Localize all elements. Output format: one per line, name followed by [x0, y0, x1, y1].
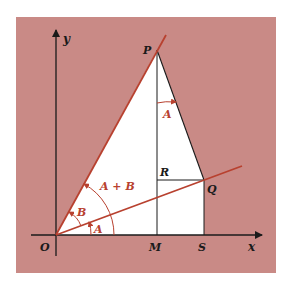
- label-angle-B: B: [76, 206, 86, 219]
- label-angle-A-plus-B: A + B: [99, 180, 135, 193]
- label-x-axis: x: [247, 240, 256, 254]
- label-R: R: [159, 166, 169, 179]
- label-angle-A-origin: A: [93, 223, 103, 236]
- label-S: S: [198, 241, 206, 254]
- diagram-canvas: y x O P Q R M S A B A + B A: [0, 0, 290, 284]
- label-Q: Q: [207, 183, 217, 196]
- label-angle-A-at-P: A: [162, 108, 172, 121]
- label-P: P: [142, 44, 152, 57]
- label-M: M: [148, 241, 162, 254]
- label-y-axis: y: [62, 32, 71, 46]
- label-origin: O: [40, 241, 50, 254]
